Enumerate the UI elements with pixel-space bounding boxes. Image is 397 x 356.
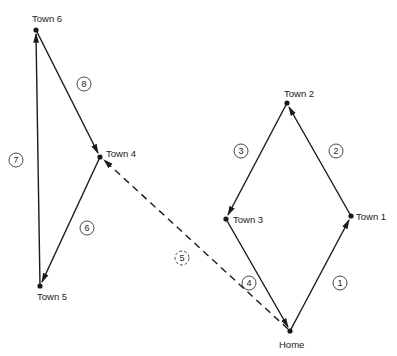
route-diagram: Home Town 1 Town 2 Town 3 Town 4 Town 5 … <box>0 0 397 356</box>
label-town2: Town 2 <box>284 88 314 99</box>
edge-1-home-to-town1 <box>290 220 349 331</box>
edge-4-town3-to-home <box>226 219 288 327</box>
step-badge-6: 6 <box>80 221 94 235</box>
label-town4: Town 4 <box>106 148 136 159</box>
step-badge-2: 2 <box>329 144 343 158</box>
step-badge-8: 8 <box>77 77 91 91</box>
label-town1: Town 1 <box>356 211 386 222</box>
step-badge-4: 4 <box>242 276 256 290</box>
label-town5: Town 5 <box>37 291 67 302</box>
step-badge-1: 1 <box>333 276 347 290</box>
node-town4 <box>97 154 102 159</box>
label-home: Home <box>279 339 304 350</box>
label-town6: Town 6 <box>32 13 62 24</box>
node-home <box>287 328 292 333</box>
node-town2 <box>284 100 289 105</box>
step-badge-3: 3 <box>234 144 248 158</box>
node-labels: Home Town 1 Town 2 Town 3 Town 4 Town 5 … <box>32 13 386 350</box>
node-town6 <box>33 27 38 32</box>
node-town3 <box>223 216 228 221</box>
edge-3-town2-to-town3 <box>228 103 287 215</box>
nodes <box>33 27 353 333</box>
edge-6-town4-to-town5 <box>42 157 100 282</box>
svg-text:7: 7 <box>13 155 18 165</box>
svg-text:8: 8 <box>81 79 86 89</box>
svg-text:3: 3 <box>238 146 243 156</box>
edge-5-home-to-town4-dashed <box>104 160 288 329</box>
node-town5 <box>37 283 42 288</box>
svg-text:6: 6 <box>84 223 89 233</box>
step-badges: 1 2 3 4 5 6 7 8 <box>9 77 347 290</box>
edge-8-town6-to-town4 <box>36 30 98 153</box>
step-badge-5: 5 <box>175 251 189 265</box>
svg-text:2: 2 <box>333 146 338 156</box>
svg-text:5: 5 <box>179 253 184 263</box>
step-badge-7: 7 <box>9 153 23 167</box>
edge-2-town1-to-town2 <box>289 107 351 216</box>
label-town3: Town 3 <box>233 214 263 225</box>
edges <box>36 30 351 331</box>
svg-text:1: 1 <box>337 278 342 288</box>
svg-text:4: 4 <box>246 278 251 288</box>
edge-7-town5-to-town6 <box>36 34 40 286</box>
node-town1 <box>348 213 353 218</box>
